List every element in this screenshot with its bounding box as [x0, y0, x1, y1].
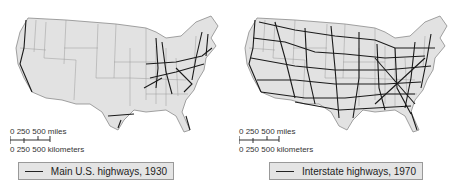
us-map-1970 — [235, 8, 453, 133]
legend-label: Interstate highways, 1970 — [302, 166, 416, 177]
us-map-1930 — [6, 8, 224, 133]
scale-km-label: 0 250 500 kilometers — [239, 145, 313, 154]
map-panel-1930: 0 250 500 miles 0 250 500 kilometers Mai… — [0, 0, 228, 191]
scale-bar-graphic — [239, 136, 283, 144]
scale-km-label: 0 250 500 kilometers — [10, 145, 84, 154]
legend-line-symbol — [25, 171, 43, 172]
us-outline — [245, 16, 447, 132]
scale-miles-label: 0 250 500 miles — [239, 127, 295, 136]
scale-bar-graphic — [10, 136, 54, 144]
legend-1970: Interstate highways, 1970 — [269, 162, 423, 180]
legend-line-symbol — [276, 171, 294, 172]
legend-1930: Main U.S. highways, 1930 — [18, 162, 174, 180]
legend-label: Main U.S. highways, 1930 — [51, 166, 167, 177]
map-panel-1970: 0 250 500 miles 0 250 500 kilometers Int… — [229, 0, 457, 191]
us-outline — [16, 16, 218, 132]
scale-miles-label: 0 250 500 miles — [10, 127, 66, 136]
